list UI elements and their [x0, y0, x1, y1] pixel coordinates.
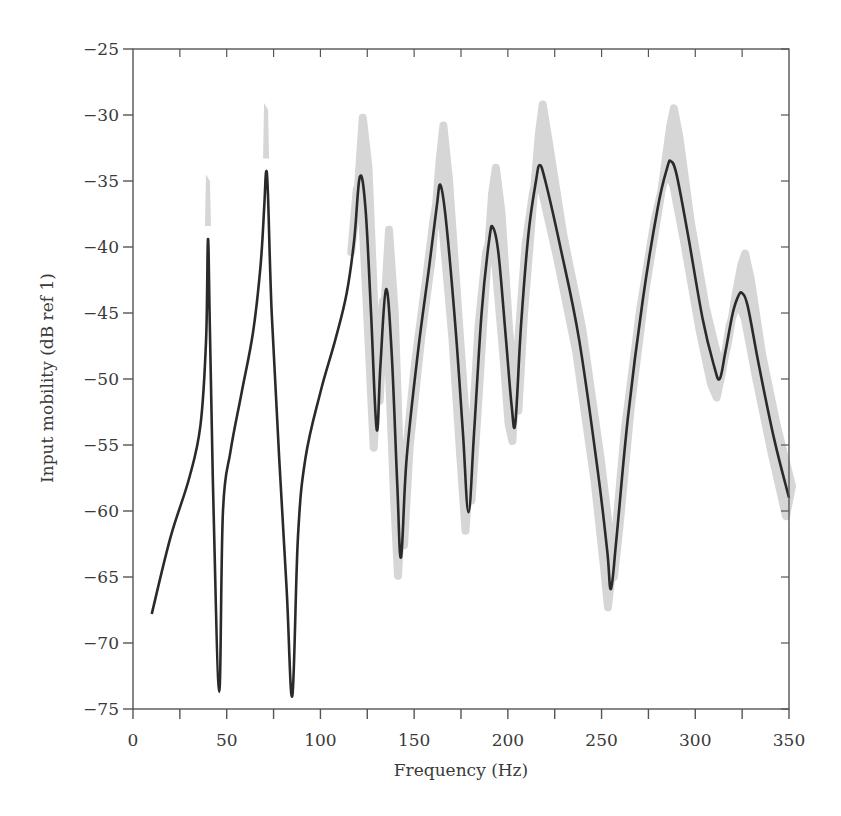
- x-tick-label: 300: [679, 730, 711, 750]
- y-axis-label: Input mobility (dB ref 1): [37, 273, 57, 483]
- x-tick-label: 250: [585, 730, 617, 750]
- y-tick-label: −30: [83, 105, 119, 125]
- x-tick-label: 350: [773, 730, 805, 750]
- variability-band: [205, 103, 792, 607]
- y-tick-label: −75: [83, 699, 119, 719]
- chart-figure: 050100150200250300350 −25−30−35−40−45−50…: [0, 0, 841, 816]
- x-tick-label: 150: [398, 730, 430, 750]
- y-tick-label: −55: [83, 435, 119, 455]
- y-tick-label: −25: [83, 39, 119, 59]
- y-tick-label: −70: [83, 633, 119, 653]
- y-tick-label: −35: [83, 171, 119, 191]
- x-tick-label: 50: [216, 730, 238, 750]
- y-tick-label: −60: [83, 501, 119, 521]
- x-tick-label: 0: [128, 730, 139, 750]
- y-tick-label: −50: [83, 369, 119, 389]
- y-tick-label: −45: [83, 303, 119, 323]
- y-tick-label: −40: [83, 237, 119, 257]
- x-tick-label: 200: [492, 730, 524, 750]
- y-tick-label: −65: [83, 567, 119, 587]
- x-axis-label: Frequency (Hz): [394, 760, 528, 780]
- x-tick-label: 100: [304, 730, 336, 750]
